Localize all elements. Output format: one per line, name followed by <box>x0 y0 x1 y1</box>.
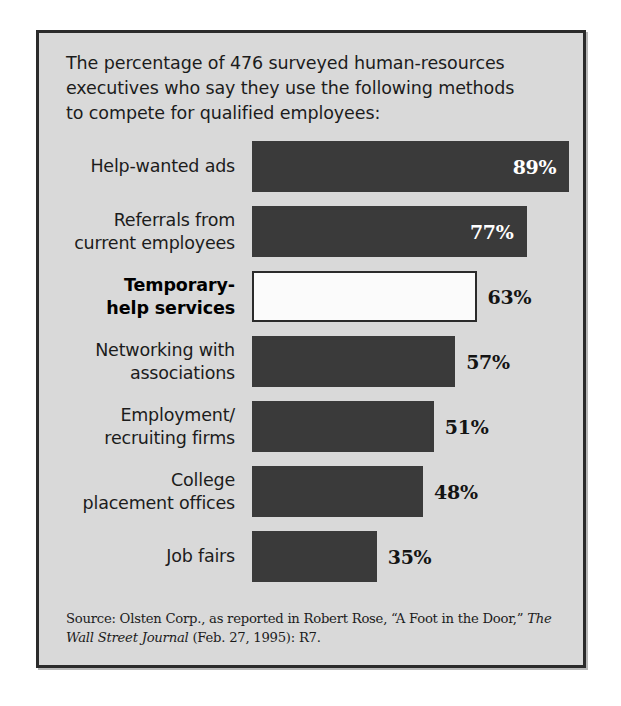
bar-rect <box>252 466 423 517</box>
bar-category-label: Employment/recruiting firms <box>15 394 235 459</box>
figure-caption: The percentage of 476 surveyed human-res… <box>66 51 536 126</box>
chart-row: Referrals fromcurrent employees77% <box>39 199 583 264</box>
bar-rect <box>252 401 434 452</box>
bar-category-label: Referrals fromcurrent employees <box>15 199 235 264</box>
source-text-part2: (Feb. 27, 1995): R7. <box>188 630 320 645</box>
bar-track: 48% <box>252 459 583 524</box>
bar-track: 57% <box>252 329 583 394</box>
chart-row: Networking withassociations57% <box>39 329 583 394</box>
bar-value-label: 48% <box>434 481 478 503</box>
bar-category-label: Collegeplacement offices <box>15 459 235 524</box>
bar-value-label: 51% <box>445 416 489 438</box>
bar-category-label-line: placement offices <box>83 492 235 515</box>
bar-value-label: 89% <box>513 156 570 178</box>
bar-category-label-line: recruiting firms <box>104 427 235 450</box>
bar-rect <box>252 531 377 582</box>
bar-category-label-line: help services <box>106 297 235 320</box>
bar-value-label: 35% <box>388 546 432 568</box>
figure-source: Source: Olsten Corp., as reported in Rob… <box>66 609 566 647</box>
bar-category-label-line: Employment/ <box>120 404 235 427</box>
bar-rect <box>252 271 477 322</box>
bar-category-label-line: Referrals from <box>114 209 235 232</box>
chart-row: Temporary-help services63% <box>39 264 583 329</box>
bar-category-label: Help-wanted ads <box>15 134 235 199</box>
chart-row: Employment/recruiting firms51% <box>39 394 583 459</box>
bar-category-label-line: Job fairs <box>166 545 235 568</box>
bar-category-label-line: current employees <box>74 232 235 255</box>
bar-rect <box>252 336 455 387</box>
figure-panel: The percentage of 476 surveyed human-res… <box>36 30 586 668</box>
source-text-part1: Source: Olsten Corp., as reported in Rob… <box>66 611 523 626</box>
bar-track: 63% <box>252 264 583 329</box>
bar-category-label-line: Temporary- <box>124 274 235 297</box>
bar-category-label-line: associations <box>130 362 235 385</box>
bar-track: 51% <box>252 394 583 459</box>
bar-value-label: 77% <box>470 221 527 243</box>
bar-rect: 89% <box>252 141 569 192</box>
bar-category-label: Networking withassociations <box>15 329 235 394</box>
bar-category-label: Job fairs <box>15 524 235 589</box>
bar-category-label-line: College <box>171 469 235 492</box>
bar-track: 77% <box>252 199 583 264</box>
bar-category-label-line: Networking with <box>95 339 235 362</box>
chart-row: Job fairs35% <box>39 524 583 589</box>
bar-value-label: 63% <box>488 286 532 308</box>
chart-row: Collegeplacement offices48% <box>39 459 583 524</box>
bar-category-label: Temporary-help services <box>15 264 235 329</box>
bar-category-label-line: Help-wanted ads <box>90 155 235 178</box>
bar-chart: Help-wanted ads89%Referrals fromcurrent … <box>39 134 583 589</box>
bar-track: 35% <box>252 524 583 589</box>
chart-row: Help-wanted ads89% <box>39 134 583 199</box>
bar-rect: 77% <box>252 206 527 257</box>
bar-track: 89% <box>252 134 583 199</box>
bar-value-label: 57% <box>466 351 510 373</box>
